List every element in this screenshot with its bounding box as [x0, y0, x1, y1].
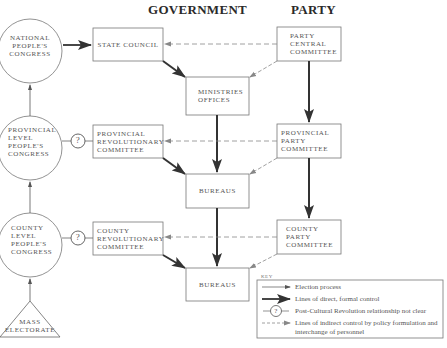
state-council-label: STATE COUNCIL [93, 41, 163, 49]
national-congress-label: NATIONAL PEOPLE'S CONGRESS [0, 34, 60, 58]
indirect-provincial-party-bureaus [250, 158, 277, 174]
question-mark-provincial: ? [74, 136, 82, 144]
county-congress-label: COUNTY LEVEL PEOPLE'S CONGRESS [11, 224, 63, 256]
government-heading: GOVERNMENT [148, 2, 247, 18]
provincial-congress-label: PROVINCIAL LEVEL PEOPLE'S CONGRESS [8, 126, 64, 158]
control-provincial-rev-bureaus [163, 158, 185, 174]
provincial-rev-label: PROVINCIAL REVOLUTIONARY COMMITTEE [97, 130, 163, 154]
party-central-label: PARTY CENTRAL COMMITTEE [290, 32, 340, 56]
mass-electorate-label: MASS ELECTORATE [0, 318, 60, 334]
provincial-party-label: PROVINCIAL PARTY COMMITTEE [281, 129, 341, 153]
key-label-election: Election process [295, 283, 341, 292]
control-county-rev-bureaus [163, 255, 185, 268]
key-title: KEY [261, 274, 273, 279]
county-party-label: COUNTY PARTY COMMITTEE [286, 225, 341, 249]
bureaus-2-label: BUREAUS [186, 281, 249, 289]
bureaus-1-label: BUREAUS [186, 187, 249, 195]
party-heading: PARTY [291, 2, 336, 18]
county-rev-label: COUNTY REVOLUTIONARY COMMITTEE [97, 227, 163, 251]
ministries-label: MINISTRIES OFFICES [198, 88, 248, 104]
key-label-indirect-control: Lines of indirect control by policy form… [295, 319, 438, 336]
key-label-relationship-unclear: Post-Cultural Revolution relationship no… [295, 307, 426, 316]
question-mark-county: ? [74, 233, 82, 241]
control-state-council-ministries [163, 61, 185, 77]
key-label-direct-control: Lines of direct, formal control [295, 295, 380, 304]
indirect-county-party-bureaus [250, 254, 277, 268]
indirect-central-ministries [250, 61, 277, 77]
key-question-mark: ? [272, 307, 280, 315]
